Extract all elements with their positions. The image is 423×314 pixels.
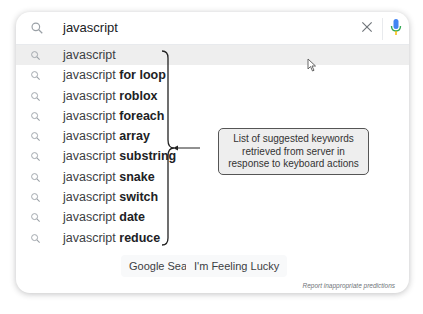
suggestion-text: javascript reduce (63, 231, 160, 245)
suggestion-prefix: javascript (63, 48, 116, 62)
suggestion-text: javascript snake (63, 170, 155, 184)
search-icon (30, 131, 41, 142)
suggestion-completion: array (119, 129, 150, 143)
search-icon (30, 91, 41, 102)
suggestion-prefix: javascript (63, 68, 119, 82)
suggestion-item[interactable]: javascript reduce (16, 228, 409, 248)
suggestion-prefix: javascript (63, 149, 119, 163)
annotation-line: List of suggested keywords (219, 133, 368, 146)
search-input[interactable]: javascript (63, 20, 118, 35)
suggestion-completion: switch (119, 190, 158, 204)
search-icon (30, 233, 41, 244)
search-icon (30, 212, 41, 223)
search-icon (30, 21, 44, 35)
suggestion-item[interactable]: javascript (16, 45, 409, 65)
search-icon (30, 192, 41, 203)
suggestion-text: javascript switch (63, 190, 158, 204)
annotation-callout: List of suggested keywords retrieved fro… (218, 128, 369, 175)
suggestion-item[interactable]: javascript roblox (16, 86, 409, 106)
mic-icon[interactable] (390, 18, 402, 36)
suggestion-completion: for loop (119, 68, 166, 82)
report-predictions-link[interactable]: Report inappropriate predictions (303, 282, 396, 289)
feeling-lucky-button[interactable]: I'm Feeling Lucky (186, 255, 287, 277)
suggestion-completion: foreach (119, 109, 164, 123)
search-icon (30, 50, 41, 61)
suggestion-item[interactable]: javascript date (16, 207, 409, 227)
suggestion-prefix: javascript (63, 129, 119, 143)
suggestion-prefix: javascript (63, 231, 119, 245)
suggestion-text: javascript roblox (63, 89, 157, 103)
suggestion-text: javascript for loop (63, 68, 166, 82)
search-bar[interactable]: javascript (16, 12, 409, 44)
suggestion-completion: date (119, 210, 145, 224)
suggestion-prefix: javascript (63, 210, 119, 224)
suggestion-item[interactable]: javascript foreach (16, 106, 409, 126)
suggestion-prefix: javascript (63, 170, 119, 184)
suggestion-item[interactable]: javascript for loop (16, 65, 409, 85)
suggestion-text: javascript foreach (63, 109, 164, 123)
suggestion-completion: reduce (119, 231, 160, 245)
brace-annotation (160, 50, 200, 246)
suggestion-text: javascript (63, 48, 116, 62)
suggestion-completion: snake (119, 170, 154, 184)
search-icon (30, 151, 41, 162)
suggestion-prefix: javascript (63, 190, 119, 204)
divider (382, 18, 383, 40)
close-icon[interactable] (360, 20, 374, 34)
suggestion-prefix: javascript (63, 89, 119, 103)
annotation-line: retrieved from server in (219, 146, 368, 159)
search-icon (30, 70, 41, 81)
annotation-line: response to keyboard actions (219, 158, 368, 171)
search-icon (30, 172, 41, 183)
search-icon (30, 111, 41, 122)
suggestion-text: javascript date (63, 210, 145, 224)
mouse-cursor-icon (307, 58, 317, 72)
suggestion-text: javascript array (63, 129, 150, 143)
suggestion-item[interactable]: javascript switch (16, 187, 409, 207)
suggestion-completion: roblox (119, 89, 157, 103)
suggestion-prefix: javascript (63, 109, 119, 123)
